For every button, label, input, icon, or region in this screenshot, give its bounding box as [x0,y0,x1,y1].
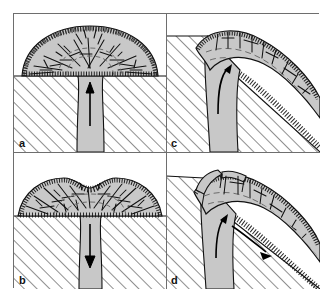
panel-divider-horizontal [14,152,320,153]
panel-b: b [14,152,166,289]
panel-c: c [166,14,320,152]
panel-d-label: d [171,275,178,286]
panel-c-label: c [171,138,177,149]
panel-b-label: b [19,275,26,286]
panel-a-label: a [19,138,25,149]
panel-d: d [166,152,320,289]
panel-a: a [14,14,166,152]
panel-a-diagram [14,14,166,152]
lava-dome-a [22,26,158,76]
panel-c-diagram [166,14,320,152]
lava-dome-b [18,178,162,216]
panel-b-diagram [14,152,166,289]
panel-d-diagram [166,152,320,289]
figure-frame: a [13,13,319,288]
